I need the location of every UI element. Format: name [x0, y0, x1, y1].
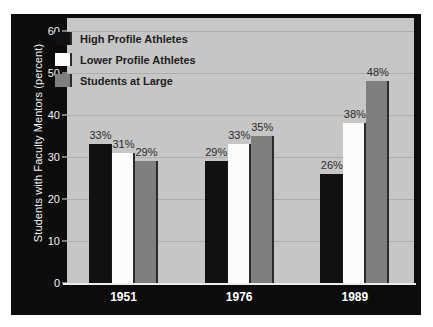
bar-value-label: 38%	[344, 108, 366, 120]
bar	[366, 81, 389, 283]
bar-value-label: 48%	[367, 66, 389, 78]
bar-value-label: 35%	[251, 121, 273, 133]
bar-value-label: 33%	[89, 129, 111, 141]
legend-item-high-profile-athletes: High Profile Athletes	[55, 30, 265, 47]
legend-swatch-icon-high-profile-athletes	[55, 32, 72, 45]
y-tick-label: 20	[26, 193, 60, 205]
bar	[205, 161, 228, 283]
bar	[89, 144, 112, 283]
bar	[251, 136, 274, 283]
legend-label-students-at-large: Students at Large	[80, 75, 173, 87]
bar-value-label: 31%	[112, 138, 134, 150]
legend-label-high-profile-athletes: High Profile Athletes	[80, 33, 188, 45]
bar	[135, 161, 158, 283]
legend-swatch-icon-students-at-large	[55, 74, 72, 87]
bar-value-label: 33%	[228, 129, 250, 141]
bar	[228, 144, 251, 283]
x-axis-baseline	[63, 283, 416, 285]
legend-item-students-at-large: Students at Large	[55, 72, 265, 89]
chart-panel: Students with Faculty Mentors (percent) …	[11, 14, 421, 315]
chart-figure: Students with Faculty Mentors (percent) …	[0, 0, 433, 327]
bar-value-label: 29%	[135, 146, 157, 158]
bar-value-label: 29%	[205, 146, 227, 158]
y-tick-label: 0	[26, 277, 60, 289]
legend-item-lower-profile-athletes: Lower Profile Athletes	[55, 51, 265, 68]
y-tick-label: 10	[26, 235, 60, 247]
bar	[320, 174, 343, 283]
chart-legend: High Profile Athletes Lower Profile Athl…	[55, 30, 265, 93]
bar	[343, 123, 366, 283]
legend-label-lower-profile-athletes: Lower Profile Athletes	[80, 54, 196, 66]
y-tick-label: 30	[26, 151, 60, 163]
bar-value-label: 26%	[321, 159, 343, 171]
x-axis-labels: 195119761989	[67, 290, 414, 312]
bar	[112, 153, 135, 283]
y-tick-label: 40	[26, 109, 60, 121]
x-axis-category-label: 1976	[226, 290, 253, 304]
legend-swatch-icon-lower-profile-athletes	[55, 53, 72, 66]
x-axis-category-label: 1989	[341, 290, 368, 304]
x-axis-category-label: 1951	[110, 290, 137, 304]
